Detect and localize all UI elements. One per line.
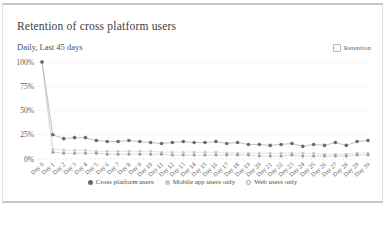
data-point [345,155,348,158]
data-point [182,151,185,154]
data-point [290,142,294,146]
data-point [105,140,109,144]
y-axis-tick: 0% [24,155,34,164]
y-axis-tick: 50% [20,106,34,115]
legend-item-web-only[interactable]: Web users only [246,178,297,186]
data-point [192,141,196,145]
data-point [247,143,251,147]
data-point [334,141,338,145]
data-point [62,152,65,155]
data-point [334,155,337,158]
data-point [149,150,152,153]
data-point [73,152,76,155]
data-point [138,153,141,156]
legend-item-mobile-only[interactable]: Mobile app users only [165,178,235,186]
data-point [323,155,326,158]
data-point [193,154,196,157]
data-point [51,151,54,154]
data-point [203,141,207,145]
data-point [84,136,88,140]
legend-label: Cross platform users [96,178,154,186]
legend-label: Web users only [254,178,297,186]
data-point [160,153,163,156]
data-point [106,153,109,156]
data-point [171,154,174,157]
data-point [214,154,217,157]
data-point [181,140,185,144]
data-point [84,149,87,152]
data-point [204,151,207,154]
data-point [73,136,77,140]
data-point [95,152,98,155]
data-point [116,140,120,144]
data-point [40,60,44,64]
data-point [117,153,120,156]
data-point [323,144,327,148]
data-point [117,150,120,153]
data-point [84,152,87,155]
data-point [290,154,293,157]
data-point [355,140,359,144]
cross-platform-marker-icon [88,180,93,185]
data-point [138,150,141,153]
y-axis-tick: 75% [20,82,34,91]
data-point [312,155,315,158]
data-point [279,143,283,147]
mobile-only-marker-icon [165,180,170,185]
data-point [127,153,130,156]
x-axis-labels: Day 0Day 1Day 2Day 3Day 4Day 5Day 6Day 7… [29,161,371,178]
data-point [62,149,65,152]
data-point [258,143,262,147]
data-point [214,140,218,144]
data-point [280,155,283,158]
data-point [62,137,66,141]
y-axis-tick: 100% [17,58,35,67]
data-point [301,155,304,158]
data-point [344,144,348,148]
data-point [160,142,164,146]
data-point [171,151,174,154]
data-point [366,139,370,143]
data-point [367,154,370,157]
data-point [356,154,359,157]
data-point [225,154,228,157]
data-point [236,141,240,145]
data-point [106,150,109,153]
data-point [171,141,175,145]
data-point [182,154,185,157]
data-point [127,139,131,143]
data-point [301,152,304,155]
data-point [258,155,261,158]
data-point [268,144,272,148]
data-point [127,150,130,153]
data-point [269,152,272,155]
series-cross-platform-users [40,60,370,148]
data-point [236,154,239,157]
y-grid: 0%25%50%75%100% [17,58,375,164]
data-point [312,143,316,147]
data-point [51,133,55,137]
data-point [269,155,272,158]
data-point [214,151,217,154]
series-legend: Cross platform users Mobile app users on… [0,178,385,186]
data-point [204,154,207,157]
data-point [280,152,283,155]
data-point [149,153,152,156]
legend-label: Mobile app users only [173,178,235,186]
legend-item-cross-platform[interactable]: Cross platform users [88,178,154,186]
web-only-marker-icon [246,180,251,185]
data-point [95,139,99,143]
data-point [73,149,76,152]
data-point [225,142,229,146]
data-point [149,141,153,145]
y-axis-tick: 25% [20,130,34,139]
data-point [301,145,305,149]
data-point [247,154,250,157]
data-point [138,140,142,144]
data-point [312,152,315,155]
data-point [193,151,196,154]
data-point [258,152,261,155]
